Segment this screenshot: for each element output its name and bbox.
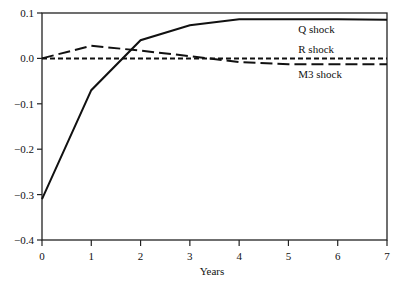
x-tick-label: 2 bbox=[138, 250, 144, 262]
y-tick-label: −0.3 bbox=[14, 189, 34, 201]
x-tick-label: 4 bbox=[236, 250, 242, 262]
y-tick-label: 0.1 bbox=[20, 7, 34, 19]
x-tick-label: 7 bbox=[384, 250, 390, 262]
x-tick-label: 1 bbox=[89, 250, 95, 262]
plot-frame bbox=[42, 13, 387, 240]
y-tick-label: −0.4 bbox=[14, 234, 34, 246]
y-tick-label: −0.1 bbox=[14, 98, 34, 110]
x-axis-label: Years bbox=[200, 265, 225, 277]
x-tick-label: 6 bbox=[335, 250, 341, 262]
y-tick-label: −0.2 bbox=[14, 143, 34, 155]
y-tick-label: 0.0 bbox=[20, 52, 34, 64]
plot-series bbox=[42, 19, 387, 199]
series-label: R shock bbox=[298, 43, 334, 55]
x-tick-label: 3 bbox=[187, 250, 193, 262]
impulse-response-chart: 0.10.0−0.1−0.2−0.3−0.401234567 Q shockR … bbox=[0, 0, 397, 284]
x-tick-label: 5 bbox=[286, 250, 292, 262]
x-tick-label: 0 bbox=[39, 250, 45, 262]
series-labels: Q shockR shockM3 shock bbox=[298, 23, 342, 80]
series-label: Q shock bbox=[298, 23, 335, 35]
series-label: M3 shock bbox=[298, 68, 342, 80]
series-line-m3-shock bbox=[42, 46, 387, 65]
